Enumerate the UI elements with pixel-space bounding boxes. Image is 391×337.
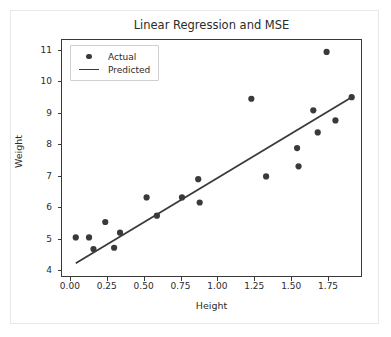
x-tick-label: 1.75 [318,281,338,291]
y-tick-mark [58,176,62,177]
legend-label-predicted: Predicted [102,65,150,75]
legend-item-actual: Actual [76,50,150,63]
x-tick-label: 0.50 [134,281,154,291]
y-tick-mark [58,207,62,208]
y-tick-mark [58,270,62,271]
y-tick-mark [58,113,62,114]
matplotlib-figure: Linear Regression and MSE Weight Height … [0,0,391,337]
y-tick-label: 4 [46,265,52,275]
x-tick-mark [254,277,255,281]
y-axis-label: Weight [13,122,24,182]
x-tick-mark [107,277,108,281]
scatter-marker-icon [76,54,102,60]
y-tick-mark [58,50,62,51]
x-tick-mark [70,277,71,281]
x-tick-label: 0.75 [170,281,190,291]
x-tick-mark [144,277,145,281]
x-tick-mark [328,277,329,281]
y-tick-mark [58,239,62,240]
x-axis-label: Height [61,300,362,311]
x-tick-mark [181,277,182,281]
y-tick-mark [58,144,62,145]
x-tick-label: 1.50 [281,281,301,291]
y-tick-label: 7 [46,171,52,181]
x-tick-label: 0.25 [97,281,117,291]
y-tick-mark [58,81,62,82]
line-marker-icon [76,69,102,71]
y-tick-label: 8 [46,139,52,149]
y-tick-label: 10 [41,76,52,86]
legend-label-actual: Actual [102,52,136,62]
legend-item-predicted: Predicted [76,63,150,76]
chart-title: Linear Regression and MSE [61,18,362,32]
x-tick-label: 0.00 [60,281,80,291]
y-tick-label: 9 [46,108,52,118]
y-tick-label: 6 [46,202,52,212]
x-tick-label: 1.00 [207,281,227,291]
x-tick-mark [291,277,292,281]
y-tick-label: 11 [41,45,52,55]
y-tick-label: 5 [46,234,52,244]
legend-box: Actual Predicted [70,45,159,81]
x-tick-label: 1.25 [244,281,264,291]
x-tick-mark [217,277,218,281]
